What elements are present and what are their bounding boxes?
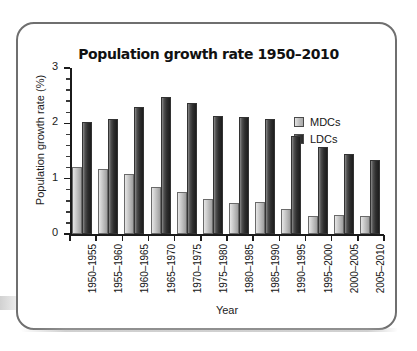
- bar-ldcs-2005-2010: [370, 160, 380, 234]
- bar-mdcs-1985-1990: [255, 202, 265, 234]
- chart-figure: Population growth rate 1950–2010 Populat…: [18, 24, 399, 332]
- x-tick: [122, 235, 124, 241]
- bar-mdcs-1955-1960: [98, 169, 108, 234]
- bar-group: [358, 68, 384, 234]
- x-tick: [383, 235, 385, 241]
- x-tick: [174, 235, 176, 241]
- x-tick: [226, 235, 228, 241]
- y-tick-label: 0: [36, 227, 58, 238]
- chart-title: Population growth rate 1950–2010: [18, 46, 399, 62]
- x-tick: [331, 235, 333, 241]
- x-tick: [148, 235, 150, 241]
- x-tick-label: 2005–2010: [375, 244, 386, 293]
- x-tick-label: 1950–1955: [87, 244, 98, 293]
- bar-group: [306, 68, 332, 234]
- bar-ldcs-1960-1965: [134, 107, 144, 234]
- bar-mdcs-1965-1970: [151, 187, 161, 234]
- bar-group: [96, 68, 122, 234]
- bar-mdcs-1960-1965: [124, 174, 134, 234]
- x-tick-label: 1985–1990: [270, 244, 281, 293]
- chart-frame: Population growth rate 1950–2010 Populat…: [16, 22, 397, 330]
- x-tick-label: 1965–1970: [166, 244, 177, 293]
- x-tick-label: 1995–2000: [323, 244, 334, 293]
- bar-plot-area: [70, 68, 384, 234]
- bar-ldcs-1965-1970: [161, 97, 171, 234]
- bar-group: [149, 68, 175, 234]
- bar-group: [175, 68, 201, 234]
- bar-group: [122, 68, 148, 234]
- bar-mdcs-1980-1985: [229, 203, 239, 234]
- bar-mdcs-1970-1975: [177, 192, 187, 234]
- x-tick: [200, 235, 202, 241]
- x-tick-label: 2000–2005: [349, 244, 360, 293]
- bar-ldcs-1995-2000: [318, 147, 328, 234]
- bar-ldcs-1955-1960: [108, 119, 118, 234]
- x-tick: [279, 235, 281, 241]
- x-axis-label: Year: [70, 304, 384, 316]
- x-tick-label: 1980–1985: [244, 244, 255, 293]
- bar-mdcs-1950-1955: [72, 167, 82, 234]
- bar-mdcs-1975-1980: [203, 199, 213, 234]
- bar-group: [279, 68, 305, 234]
- x-tick-label: 1975–1980: [218, 244, 229, 293]
- bar-group: [201, 68, 227, 234]
- bar-ldcs-1985-1990: [265, 119, 275, 234]
- y-tick-label: 3: [36, 61, 58, 72]
- bar-mdcs-1990-1995: [281, 209, 291, 234]
- bar-mdcs-2000-2005: [334, 215, 344, 234]
- bar-group: [253, 68, 279, 234]
- bar-ldcs-1950-1955: [82, 122, 92, 234]
- bar-ldcs-1990-1995: [291, 136, 301, 234]
- bar-ldcs-2000-2005: [344, 154, 354, 234]
- y-tick-label: 2: [36, 116, 58, 127]
- bar-group: [227, 68, 253, 234]
- bar-mdcs-2005-2010: [360, 216, 370, 234]
- x-tick-label: 1960–1965: [139, 244, 150, 293]
- x-tick: [305, 235, 307, 241]
- bar-mdcs-1995-2000: [308, 216, 318, 234]
- bar-ldcs-1980-1985: [239, 117, 249, 234]
- y-tick-label: 1: [36, 172, 58, 183]
- x-tick-label: 1955–1960: [113, 244, 124, 293]
- x-tick: [252, 235, 254, 241]
- bar-group: [70, 68, 96, 234]
- bar-ldcs-1975-1980: [213, 116, 223, 234]
- x-tick-label: 1990–1995: [296, 244, 307, 293]
- y-axis-label: Population growth rate (%): [34, 55, 46, 225]
- x-tick-label: 1970–1975: [192, 244, 203, 293]
- x-tick: [357, 235, 359, 241]
- bar-ldcs-1970-1975: [187, 103, 197, 234]
- x-tick: [69, 235, 71, 241]
- bar-group: [332, 68, 358, 234]
- x-tick: [95, 235, 97, 241]
